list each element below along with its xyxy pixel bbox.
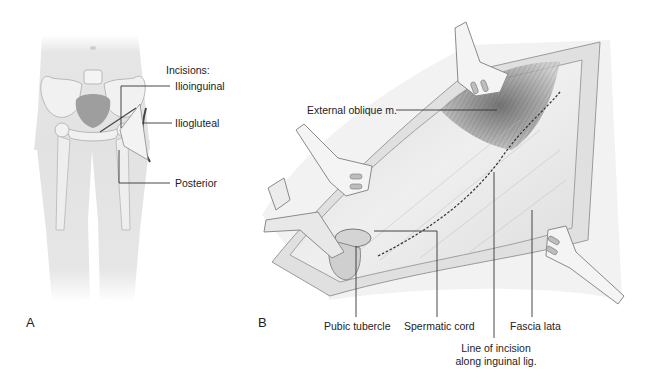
label-spermatic-cord: Spermatic cord [404, 320, 475, 332]
label-incision-line-2: along inguinal lig. [448, 355, 544, 367]
label-fascia-lata: Fascia lata [510, 320, 561, 332]
panel-b-letter: B [258, 315, 267, 330]
incisions-heading: Incisions: [166, 64, 210, 76]
panel-a-body [34, 35, 150, 302]
label-pubic-tubercle: Pubic tubercle [324, 320, 391, 332]
figure: Incisions: Ilioinguinal Iliogluteal Post… [0, 0, 659, 384]
label-iliogluteal: Iliogluteal [175, 117, 219, 129]
label-external-oblique: External oblique m. [307, 104, 397, 116]
label-ilioinguinal: Ilioinguinal [175, 80, 225, 92]
label-incision-line-1: Line of incision [454, 342, 538, 354]
label-posterior: Posterior [175, 177, 217, 189]
panel-a-letter: A [26, 315, 35, 330]
